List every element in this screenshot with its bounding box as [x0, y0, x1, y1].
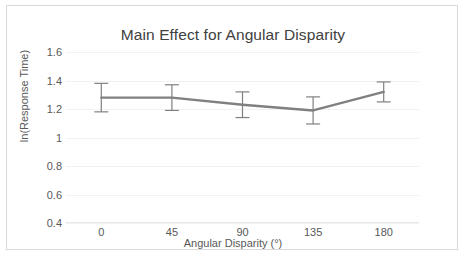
y-axis-tick-label: 1 — [16, 132, 62, 144]
error-bar — [377, 82, 391, 102]
chart-screenshot: Main Effect for Angular Disparity ln(Res… — [0, 0, 470, 266]
y-axis-tick-label: 0.4 — [16, 217, 62, 229]
y-axis-tick-label: 1.6 — [16, 46, 62, 58]
y-axis-tick-label: 1.2 — [16, 103, 62, 115]
x-axis-title: Angular Disparity (°) — [7, 237, 459, 249]
y-axis-tick-label: 0.6 — [16, 189, 62, 201]
gridline — [66, 223, 419, 224]
plot-area — [66, 52, 419, 223]
y-axis-tick-label: 0.8 — [16, 160, 62, 172]
chart-frame: Main Effect for Angular Disparity ln(Res… — [6, 5, 458, 250]
y-axis-tick-labels: 1.61.41.210.80.60.4 — [12, 52, 62, 223]
chart-title: Main Effect for Angular Disparity — [7, 26, 459, 44]
y-axis-tick-label: 1.4 — [16, 75, 62, 87]
data-series-line — [66, 52, 419, 223]
